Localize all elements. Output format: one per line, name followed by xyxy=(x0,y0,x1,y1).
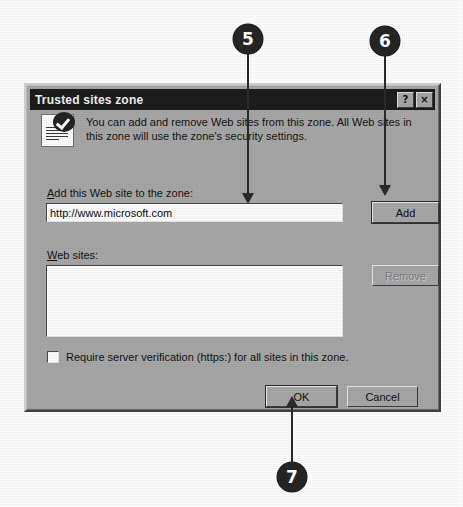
dialog-inner-frame: Trusted sites zone ? × You can add and r… xyxy=(26,85,439,410)
require-https-checkbox[interactable] xyxy=(47,351,59,363)
callout-7-leader xyxy=(291,404,293,466)
callout-5-leader xyxy=(247,53,249,195)
add-button[interactable]: Add xyxy=(372,202,439,223)
trusted-sites-zone-icon xyxy=(41,114,74,147)
web-sites-label-accelerator: W xyxy=(47,249,57,261)
help-icon[interactable]: ? xyxy=(397,92,414,108)
web-sites-label-text: eb sites: xyxy=(57,249,98,261)
callout-7-arrowhead xyxy=(286,396,298,407)
callout-5: 5 xyxy=(233,24,263,54)
callout-5-arrowhead xyxy=(242,193,254,204)
require-https-label: Require server verification (https:) for… xyxy=(66,351,348,363)
require-https-row[interactable]: Require server verification (https:) for… xyxy=(47,351,348,363)
ok-button[interactable]: OK xyxy=(266,386,337,407)
web-sites-listbox[interactable] xyxy=(46,265,343,337)
dialog-title: Trusted sites zone xyxy=(35,93,395,107)
zone-description-text: You can add and remove Web sites from th… xyxy=(86,114,424,147)
trusted-sites-zone-dialog: Trusted sites zone ? × You can add and r… xyxy=(24,83,441,412)
callout-6: 6 xyxy=(370,26,400,56)
add-site-label-text: dd this Web site to the zone: xyxy=(54,187,193,199)
add-site-input[interactable]: http://www.microsoft.com xyxy=(46,203,343,222)
checkmark-badge-icon xyxy=(53,112,75,132)
callout-6-arrowhead xyxy=(379,185,391,196)
add-site-label: Add this Web site to the zone: xyxy=(47,187,193,199)
cancel-button[interactable]: Cancel xyxy=(347,386,418,407)
dialog-titlebar[interactable]: Trusted sites zone ? × xyxy=(30,89,435,110)
web-sites-label: Web sites: xyxy=(47,249,98,261)
callout-7: 7 xyxy=(277,462,307,492)
callout-6-leader xyxy=(384,55,386,187)
remove-button[interactable]: Remove xyxy=(372,265,439,286)
close-icon[interactable]: × xyxy=(416,92,433,108)
zone-description-row: You can add and remove Web sites from th… xyxy=(41,114,424,147)
